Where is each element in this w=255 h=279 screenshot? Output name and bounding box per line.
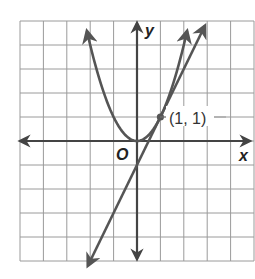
y-axis-label: y bbox=[144, 22, 155, 39]
x-axis-label: x bbox=[238, 147, 249, 164]
point-label: (1, 1) bbox=[169, 110, 206, 127]
tangent-line bbox=[88, 26, 205, 266]
coordinate-graph: (1, 1) y x O bbox=[0, 0, 255, 279]
origin-label: O bbox=[116, 146, 129, 163]
